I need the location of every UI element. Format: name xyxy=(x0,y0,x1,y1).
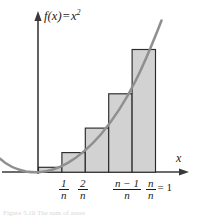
x-tick-label-n-over-n: n n = 1 xyxy=(146,178,156,201)
numerator: 1 xyxy=(59,178,69,189)
equals-one: = 1 xyxy=(156,182,172,193)
bar-2 xyxy=(62,153,85,173)
y-axis-arrowhead xyxy=(34,11,41,21)
x-axis-arrowhead xyxy=(179,168,189,175)
numerator: n xyxy=(146,178,156,189)
numerator: 2 xyxy=(78,178,88,189)
denominator: n xyxy=(146,189,156,201)
bar-5 xyxy=(132,50,155,173)
function-name: f(x) xyxy=(44,9,62,23)
riemann-sum-figure: f(x)=x2 x 1 n 2 n n − 1 n n n = 1 Figure… xyxy=(0,0,198,218)
denominator: n xyxy=(59,189,69,201)
x-tick-label-n-minus-1-over-n: n − 1 n xyxy=(113,178,141,201)
x-axis-label: x xyxy=(176,152,181,164)
figure-caption: Figure 5.10 The sum of areas xyxy=(3,209,195,218)
equals-sign: = xyxy=(62,9,71,23)
x-tick-label-1-over-n: 1 n xyxy=(59,178,69,201)
denominator: n xyxy=(78,189,88,201)
bar-3 xyxy=(85,128,108,172)
numerator: n − 1 xyxy=(113,178,141,189)
denominator: n xyxy=(113,189,141,201)
riemann-bars xyxy=(39,50,156,173)
function-exponent: 2 xyxy=(77,8,81,17)
x-tick-label-2-over-n: 2 n xyxy=(78,178,88,201)
function-label: f(x)=x2 xyxy=(44,9,81,23)
